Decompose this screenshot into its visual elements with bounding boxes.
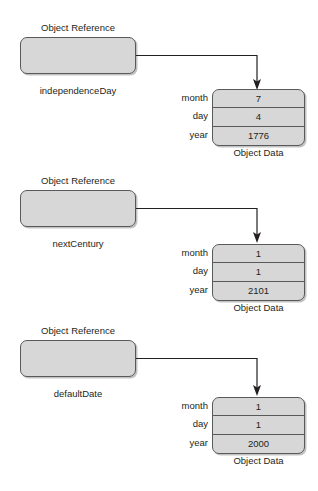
diagram-block: Object Reference independenceDay month d…: [0, 0, 318, 165]
field-label-day: day: [150, 107, 208, 125]
diagram-block: Object Reference nextCentury month day y…: [0, 153, 318, 318]
field-label-month: month: [150, 397, 208, 415]
object-reference-diagram: Object Reference independenceDay month d…: [0, 0, 318, 491]
data-row: 7: [213, 90, 304, 108]
diagram-block: Object Reference defaultDate month day y…: [0, 303, 318, 491]
data-row: 1: [213, 416, 304, 434]
data-row: 2000: [213, 435, 304, 453]
object-data-box: 7 4 1776: [212, 89, 305, 146]
data-row: 1: [213, 245, 304, 263]
field-label-day: day: [150, 262, 208, 280]
data-row: 1: [213, 398, 304, 416]
data-row: 1: [213, 263, 304, 281]
field-label-year: year: [150, 281, 208, 299]
field-label-month: month: [150, 89, 208, 107]
data-row: 2101: [213, 282, 304, 300]
field-label-year: year: [150, 434, 208, 452]
field-label-day: day: [150, 415, 208, 433]
field-label-year: year: [150, 126, 208, 144]
data-row: 1776: [213, 127, 304, 145]
data-row: 4: [213, 108, 304, 126]
object-data-box: 1 1 2000: [212, 397, 305, 454]
object-data-caption: Object Data: [212, 455, 305, 466]
object-data-box: 1 1 2101: [212, 244, 305, 301]
field-label-month: month: [150, 244, 208, 262]
